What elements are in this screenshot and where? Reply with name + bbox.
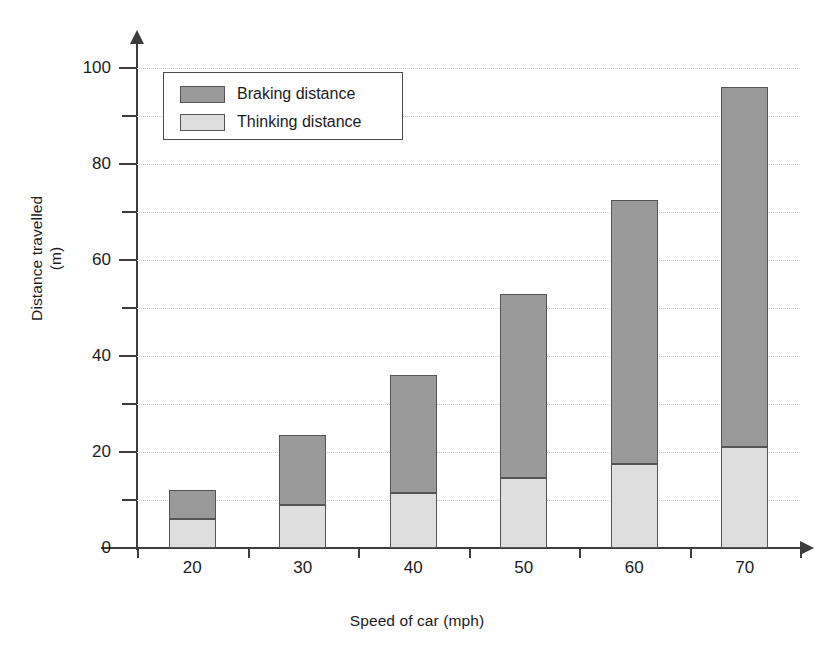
bar-segment-thinking xyxy=(721,447,768,548)
x-tick-label: 40 xyxy=(373,558,453,578)
y-tick-major xyxy=(119,67,137,69)
gridline-minor xyxy=(137,212,800,214)
gridline-major xyxy=(137,164,800,166)
x-tick xyxy=(690,549,692,558)
bar-segment-thinking xyxy=(169,519,216,548)
legend: Braking distance Thinking distance xyxy=(163,72,403,140)
bar-segment-braking xyxy=(390,375,437,493)
gridline-major xyxy=(137,452,800,454)
bar-segment-thinking xyxy=(390,493,437,548)
bar-segment-braking xyxy=(721,87,768,447)
x-axis-title: Speed of car (mph) xyxy=(0,612,834,630)
gridline-major xyxy=(137,68,800,70)
y-tick-major xyxy=(119,547,137,549)
legend-item-thinking: Thinking distance xyxy=(180,109,402,135)
x-tick xyxy=(800,549,802,558)
y-tick-label: 40 xyxy=(59,346,111,366)
bar-segment-braking xyxy=(169,490,216,519)
legend-swatch-braking xyxy=(180,86,225,103)
legend-item-braking: Braking distance xyxy=(180,81,402,107)
y-axis-arrow-icon xyxy=(130,30,144,44)
x-tick-label: 50 xyxy=(484,558,564,578)
stacked-bar-chart: Distance travelled (m) 020406080100 2030… xyxy=(0,0,834,658)
x-tick-label: 20 xyxy=(152,558,232,578)
y-tick-major xyxy=(119,259,137,261)
gridline-major xyxy=(137,260,800,262)
x-axis-arrow-icon xyxy=(800,541,814,555)
bar-segment-thinking xyxy=(279,505,326,548)
legend-swatch-thinking xyxy=(180,114,225,131)
y-tick-minor xyxy=(122,499,137,501)
legend-label-thinking: Thinking distance xyxy=(237,113,362,131)
x-tick-label: 70 xyxy=(705,558,785,578)
x-tick xyxy=(469,549,471,558)
y-tick-label: 100 xyxy=(59,58,111,78)
y-tick-major xyxy=(119,451,137,453)
bar-segment-braking xyxy=(279,435,326,505)
gridline-minor xyxy=(137,404,800,406)
gridline-major xyxy=(137,356,800,358)
y-tick-minor xyxy=(122,211,137,213)
x-tick xyxy=(248,549,250,558)
y-tick-minor xyxy=(122,403,137,405)
x-tick-label: 30 xyxy=(263,558,343,578)
y-tick-major xyxy=(119,163,137,165)
y-tick-label: 60 xyxy=(59,250,111,270)
legend-label-braking: Braking distance xyxy=(237,85,355,103)
y-tick-label: 80 xyxy=(59,154,111,174)
y-tick-major xyxy=(119,355,137,357)
gridline-minor xyxy=(137,308,800,310)
y-tick-minor xyxy=(122,307,137,309)
y-tick-minor xyxy=(122,115,137,117)
y-tick-label: 20 xyxy=(59,442,111,462)
gridline-minor xyxy=(137,500,800,502)
bar-segment-braking xyxy=(500,294,547,479)
bar-segment-braking xyxy=(611,200,658,464)
bar-segment-thinking xyxy=(611,464,658,548)
x-tick xyxy=(579,549,581,558)
y-tick-label: 0 xyxy=(59,538,111,558)
x-tick xyxy=(358,549,360,558)
x-tick xyxy=(137,549,139,558)
bar-segment-thinking xyxy=(500,478,547,548)
x-tick-label: 60 xyxy=(594,558,674,578)
